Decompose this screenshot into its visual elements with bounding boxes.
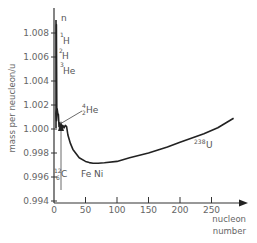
x-axis-arrow-icon — [239, 200, 248, 207]
label-h1-symbol: H — [63, 36, 70, 46]
y-tick-label: 1.002 — [23, 100, 49, 110]
label-neutron: n — [61, 13, 67, 23]
label-u238-symbol: U — [206, 140, 213, 150]
x-ticks: 050100150200250 — [51, 197, 220, 215]
y-tick-label: 0.998 — [23, 148, 49, 158]
x-tick-label: 150 — [140, 205, 157, 215]
y-tick-label: 1.006 — [23, 52, 49, 62]
y-axis-title: mass per neucleon/u — [7, 64, 17, 153]
y-tick-label: 1.000 — [23, 124, 49, 134]
label-he3-symbol: He — [63, 66, 76, 76]
x-axis-title-line2: number — [213, 226, 247, 236]
he4-leader-line — [60, 111, 82, 124]
label-he4-symbol: He — [86, 105, 99, 115]
mass-per-nucleon-chart: 050100150200250 0.9940.9960.9981.0001.00… — [0, 0, 257, 243]
y-tick-label: 1.008 — [23, 28, 49, 38]
label-c12-symbol: C — [61, 169, 67, 179]
y-tick-label: 1.004 — [23, 76, 49, 86]
label-c12-atomic: 6 — [56, 174, 60, 181]
y-ticks: 0.9940.9960.9981.0001.0021.0041.0061.008 — [23, 28, 57, 206]
x-tick-label: 100 — [108, 205, 125, 215]
x-tick-label: 0 — [51, 205, 57, 215]
y-tick-label: 0.996 — [23, 172, 49, 182]
label-h2-symbol: H — [62, 51, 69, 61]
x-tick-label: 50 — [80, 205, 92, 215]
y-tick-label: 0.994 — [23, 196, 49, 206]
label-fe-ni: Fe Ni — [81, 169, 103, 179]
x-tick-label: 200 — [171, 205, 188, 215]
x-axis-title-line1: nucleon — [212, 214, 246, 224]
label-u238-mass: 238 — [194, 138, 206, 145]
